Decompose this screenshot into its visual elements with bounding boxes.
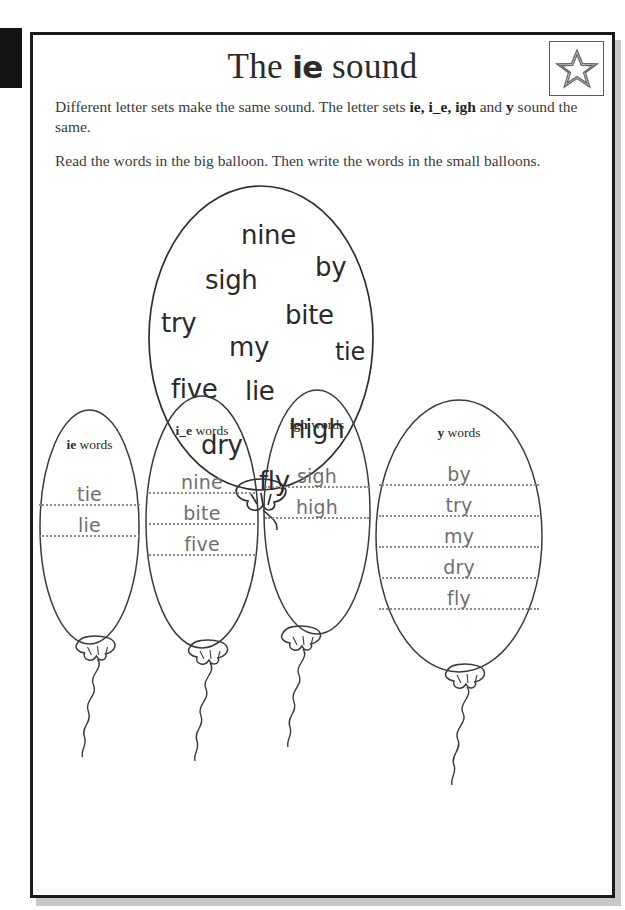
answer-line[interactable]: fly [379,579,539,610]
balloon-label-suffix: words [76,437,112,452]
answer-line[interactable]: bite [149,494,255,525]
answer-word: sigh [265,465,369,487]
answer-word: five [149,533,255,555]
answer-word: by [379,463,539,485]
answer-word: fly [379,587,539,609]
instruction-1-y: y [506,98,514,115]
balloon-label-letterset: i_e [176,423,193,438]
answer-word: try [379,494,539,516]
i_e-words-balloon: i_e wordsninebitefive [143,393,261,771]
answer-word: tie [39,483,140,505]
instruction-line-2: Read the words in the big balloon. Then … [55,151,590,171]
answer-word: nine [149,471,255,493]
balloon-label: i_e words [143,423,261,439]
igh-words-balloon: igh wordssighhigh [261,387,373,757]
answer-line-list: ninebitefive [149,463,255,556]
balloon-label-suffix: words [192,423,228,438]
y-words-balloon: y wordsbytrymydryfly [373,397,545,795]
balloon-label: y words [373,425,545,441]
instructions: Different letter sets make the same soun… [55,97,590,185]
answer-line-list: tielie [39,475,140,537]
balloon-label-letterset: igh [290,417,308,432]
balloon-outline [143,393,261,771]
answer-word: my [379,525,539,547]
page-title: The ie sound [33,47,612,87]
answer-line[interactable]: sigh [265,457,369,488]
balloon-label: igh words [261,417,373,433]
title-prefix: The [227,47,292,86]
word-bank-word: my [229,332,269,362]
answer-line[interactable]: dry [379,548,539,579]
word-bank-word: sigh [205,265,258,295]
answer-line-list: bytrymydryfly [379,455,539,610]
title-suffix: sound [323,47,418,86]
balloon-label-letterset: ie [66,437,76,452]
ie-words-balloon: ie wordstielie [37,407,142,767]
balloon-label-suffix: words [308,417,344,432]
balloon-outline [37,407,142,767]
answer-line-list: sighhigh [265,457,369,519]
word-bank-word: tie [335,338,365,366]
answer-word: dry [379,556,539,578]
answer-word: high [265,496,369,518]
word-bank-word: try [161,308,196,338]
answer-line[interactable]: high [265,488,369,519]
answer-line[interactable]: try [379,486,539,517]
instruction-1-c: and [476,98,506,115]
answer-line[interactable]: my [379,517,539,548]
word-bank-word: by [315,252,346,282]
answer-line[interactable]: by [379,455,539,486]
word-bank-word: bite [285,300,334,330]
worksheet-page: The ie sound Different letter sets make … [30,32,615,898]
word-bank-word: nine [241,220,296,250]
balloon-label-suffix: words [444,425,480,440]
balloon-outline [261,387,373,757]
answer-line[interactable]: nine [149,463,255,494]
answer-line[interactable]: tie [39,475,140,506]
title-sound: ie [292,49,323,85]
answer-word: bite [149,502,255,524]
instruction-1-letter-sets: ie, i_e, igh [410,98,476,115]
answer-line[interactable]: five [149,525,255,556]
instruction-1-a: Different letter sets make the same soun… [55,98,410,115]
instruction-line-1: Different letter sets make the same soun… [55,97,590,137]
page-edge-tab [0,28,22,88]
balloon-label: ie words [37,437,142,453]
answer-line[interactable]: lie [39,506,140,537]
answer-word: lie [39,514,140,536]
